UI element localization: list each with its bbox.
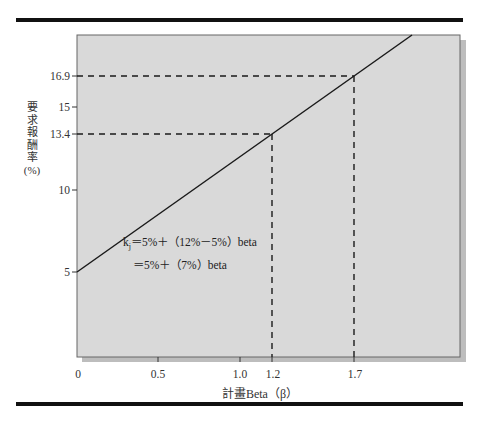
formula-line-2: ＝5%＋（7%）beta	[123, 256, 257, 274]
y-label-char: 求	[20, 114, 44, 127]
formula-line-1: kj＝5%＋（12%－5%）beta	[123, 233, 257, 256]
x-tick-0.5: 0.5	[151, 368, 166, 380]
y-tick-10: 10	[59, 184, 71, 196]
y-axis-label: 要 求 報 酬 率 (%)	[20, 101, 44, 176]
bottom-rule	[16, 402, 463, 406]
y-label-char: (%)	[20, 164, 44, 177]
y-tick-15: 15	[59, 101, 71, 113]
x-axis-label: 計畫Beta（β）	[180, 384, 340, 402]
formula-annotation: kj＝5%＋（12%－5%）beta ＝5%＋（7%）beta	[123, 233, 257, 274]
y-label-char: 率	[20, 151, 44, 164]
y-axis	[72, 76, 77, 272]
y-tick-13.4: 13.4	[50, 128, 70, 140]
y-label-char: 要	[20, 101, 44, 114]
x-tick-0: 0	[75, 368, 81, 380]
y-label-char: 酬	[20, 139, 44, 152]
x-tick-1.2: 1.2	[266, 368, 281, 380]
y-tick-5: 5	[64, 266, 70, 278]
y-tick-16.9: 16.9	[50, 70, 70, 82]
sml-chart: 16.9 15 13.4 10 5 0 0.5 1.0 1.2 1.7	[0, 0, 481, 424]
formula-line-1-rest: ＝5%＋（12%－5%）beta	[131, 236, 257, 248]
x-tick-1.7: 1.7	[348, 368, 363, 380]
y-label-char: 報	[20, 126, 44, 139]
plot-area	[77, 35, 460, 357]
x-tick-1.0: 1.0	[233, 368, 248, 380]
